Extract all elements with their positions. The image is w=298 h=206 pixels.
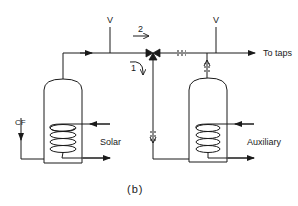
auxiliary-coil [196, 124, 254, 158]
cold-feed-label: CF [15, 119, 26, 127]
solar-label: Solar [100, 138, 121, 147]
main-pipe [63, 53, 150, 79]
auxiliary-label: Auxiliary [247, 138, 281, 147]
bypass-pipe [153, 53, 189, 159]
solar-dhw-diagram [0, 0, 298, 206]
figure-caption: (b) [127, 184, 143, 195]
three-way-valve [146, 49, 160, 60]
auxiliary-tank [189, 78, 254, 162]
outlet-label: To taps [263, 49, 292, 58]
flow-path-2-label: 2 [138, 25, 143, 34]
vent-left-label: V [107, 16, 113, 25]
vent-right-label: V [213, 16, 219, 25]
solar-tank [44, 79, 110, 163]
flow-path-1-label: 1 [131, 64, 136, 73]
